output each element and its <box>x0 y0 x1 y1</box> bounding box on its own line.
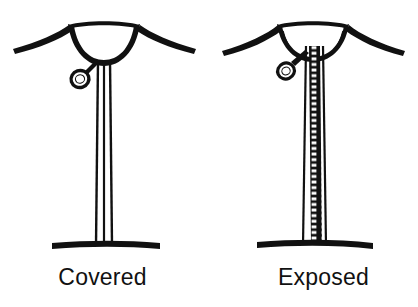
zipper-pull-ring-inner <box>281 66 292 77</box>
neckline-top-edge <box>69 21 139 29</box>
neckline-outer-curve <box>68 24 140 66</box>
zipper-pull-ring-inner <box>74 74 85 85</box>
zipper-tape-right-edge <box>323 46 326 245</box>
neckline-inner-facing-line <box>73 31 135 63</box>
left-shoulder-line <box>222 25 281 56</box>
neckline-top-edge <box>278 21 348 29</box>
exposed-garment-drawing <box>209 0 418 262</box>
zipper-style-comparison-figure: Covered <box>0 0 418 307</box>
panel-covered: Covered <box>0 0 209 307</box>
left-shoulder-line <box>13 25 72 54</box>
hem-line <box>257 240 373 249</box>
hem-line <box>52 241 160 249</box>
zipper-tape-left-edge <box>303 46 306 245</box>
placket-line-left <box>96 60 98 245</box>
panel-label-exposed: Exposed <box>209 262 418 292</box>
covered-garment-drawing <box>0 0 209 262</box>
placket-line-right <box>110 60 112 245</box>
panel-exposed: Exposed <box>209 0 418 307</box>
right-shoulder-line <box>137 25 196 54</box>
panel-label-covered: Covered <box>0 262 209 292</box>
zipper-teeth-column <box>309 46 322 245</box>
right-shoulder-line <box>346 25 405 56</box>
